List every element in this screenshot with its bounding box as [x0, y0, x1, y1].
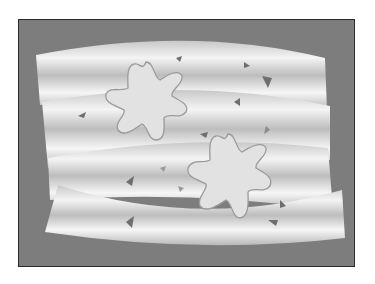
- fabric-illustration: [0, 0, 375, 284]
